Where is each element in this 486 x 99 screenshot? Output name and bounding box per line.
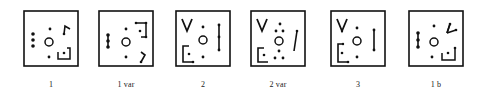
diagram-panel-1b xyxy=(408,10,464,67)
sign-pattern-1-var xyxy=(98,10,154,67)
diagram-panel-2 xyxy=(175,10,231,67)
panel-label-1-var: 1 var xyxy=(98,80,154,89)
sign-pattern-2 xyxy=(175,10,231,67)
panel-label-3: 3 xyxy=(330,80,386,89)
sign-pattern-2-var xyxy=(250,10,306,67)
diagram-panel-1 xyxy=(23,10,79,67)
panel-label-1b: 1 b xyxy=(408,80,464,89)
diagram-panel-1-var xyxy=(98,10,154,67)
panel-label-2-var: 2 var xyxy=(250,80,306,89)
sign-pattern-1b xyxy=(408,10,464,67)
panel-label-1: 1 xyxy=(23,80,79,89)
panel-label-2: 2 xyxy=(175,80,231,89)
sign-pattern-1 xyxy=(23,10,79,67)
diagram-panel-3 xyxy=(330,10,386,67)
sign-pattern-3 xyxy=(330,10,386,67)
diagram-panel-2-var xyxy=(250,10,306,67)
